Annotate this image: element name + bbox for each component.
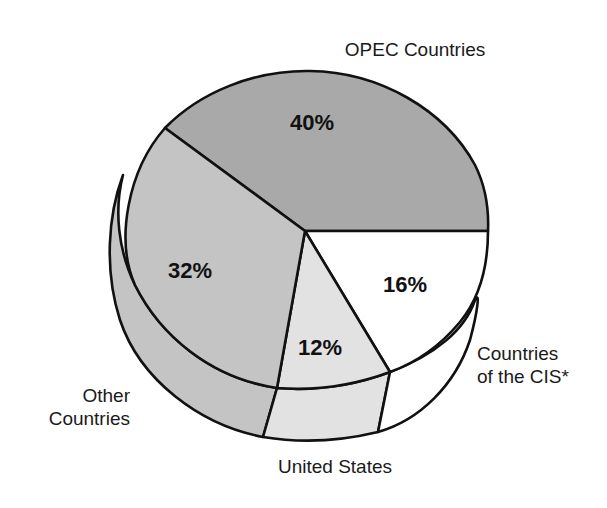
category-label-other: Other Countries <box>40 384 130 430</box>
pct-label-cis: 16% <box>383 272 427 298</box>
category-label-cis: Countries of the CIS* <box>477 342 569 388</box>
category-label-other-line1: Other <box>40 384 130 407</box>
category-label-us: United States <box>260 455 410 478</box>
pct-label-us: 12% <box>298 335 342 361</box>
category-label-cis-line1: Countries <box>477 342 569 365</box>
category-label-other-line2: Countries <box>40 407 130 430</box>
category-label-opec: OPEC Countries <box>325 38 505 61</box>
pie-chart <box>0 0 607 508</box>
pct-label-opec: 40% <box>290 110 334 136</box>
category-label-cis-line2: of the CIS* <box>477 365 569 388</box>
pct-label-other: 32% <box>168 258 212 284</box>
